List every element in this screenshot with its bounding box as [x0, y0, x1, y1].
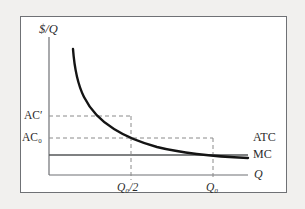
atc-curve-main	[73, 49, 248, 158]
x-tick-q0-half-text: Q₀/2	[117, 181, 138, 193]
figure-root: $/Q AC′ AC₀ Q₀/2 Q₀ ATC MC Q	[0, 0, 305, 209]
x-tick-label-q0: Q₀	[206, 182, 218, 194]
y-tick-ac-zero-text: AC₀	[22, 131, 42, 143]
atc-curve-label: ATC	[253, 131, 276, 143]
y-tick-label-ac-prime: AC′	[24, 110, 43, 122]
x-tick-q0-text: Q₀	[206, 181, 218, 193]
y-axis-title: $/Q	[39, 23, 58, 36]
chart-plot-area	[21, 17, 286, 192]
y-tick-ac-prime-text: AC′	[24, 109, 43, 121]
mc-curve-label: MC	[253, 148, 272, 160]
chart-panel: $/Q AC′ AC₀ Q₀/2 Q₀ ATC MC Q	[20, 16, 287, 193]
x-axis-title: Q	[254, 168, 263, 180]
y-tick-label-ac-zero: AC₀	[22, 132, 42, 144]
x-tick-label-q0-half: Q₀/2	[117, 182, 138, 194]
